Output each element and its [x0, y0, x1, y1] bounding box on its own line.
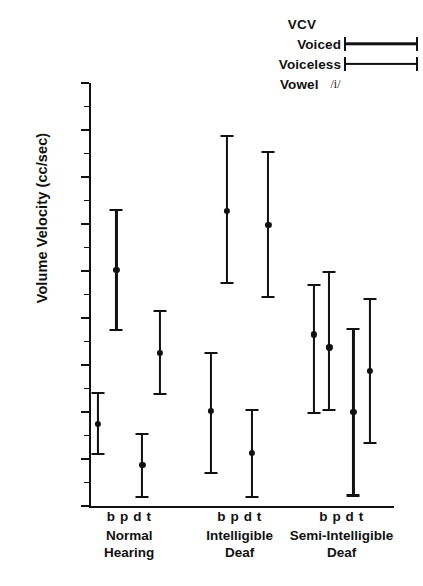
x-group-name-line1: Semi-Intelligible: [262, 528, 422, 545]
legend-voiced-label: Voiced: [297, 37, 341, 52]
mean-marker: [157, 350, 163, 356]
y-tick-1300: [84, 294, 89, 296]
x-axis-group-labels: b p d tNormalHearingb p d tIntelligibleD…: [89, 509, 394, 583]
y-tick-900: [84, 388, 89, 390]
x-group-name-line2: Deaf: [262, 545, 422, 562]
y-tick-1600: [81, 223, 89, 225]
error-bar-cap-upper: [363, 298, 376, 300]
error-bar-cap-lower: [323, 409, 336, 411]
y-tick-600: [81, 458, 89, 460]
legend-voiced-row: Voiced: [236, 34, 418, 54]
x-group-semi-intelligible: b p d tSemi-IntelligibleDeaf: [262, 509, 422, 561]
error-bar-cap-lower: [262, 296, 275, 298]
y-tick-1700: [84, 200, 89, 202]
y-tick-1800: [81, 176, 89, 178]
error-bar-cap-upper: [323, 271, 336, 273]
legend-voiceless-row: Voiceless: [236, 54, 418, 74]
y-tick-2200: [81, 82, 89, 84]
mean-marker: [208, 408, 214, 414]
error-bar-cap-upper: [347, 328, 360, 330]
error-bar-cap-upper: [307, 284, 320, 286]
y-tick-800: [81, 411, 89, 413]
y-tick-1100: [84, 341, 89, 343]
error-bar-cap-lower: [136, 496, 149, 498]
error-bar-cap-lower: [246, 496, 259, 498]
x-axis-line: [89, 506, 394, 508]
y-axis-line: [89, 83, 91, 508]
mean-marker: [224, 208, 230, 214]
error-bar-line: [328, 272, 330, 409]
y-tick-400: [81, 505, 89, 507]
legend-voiceless-label: Voiceless: [279, 57, 341, 72]
error-bar-cap-upper: [220, 135, 233, 137]
error-bar-cap-lower: [220, 282, 233, 284]
y-tick-2000: [81, 129, 89, 131]
error-bar-cap-upper: [246, 409, 259, 411]
legend-title-row: VCV: [236, 14, 418, 34]
error-bar-cap-lower: [92, 453, 105, 455]
error-bar-cap-lower: [347, 494, 360, 496]
volume-velocity-figure: VCV Voiced Voiceless Vowel /i/ Volume Ve…: [0, 0, 423, 586]
x-phoneme-labels: b p d t: [262, 509, 422, 528]
error-bar-cap-lower: [307, 412, 320, 414]
mean-marker: [367, 368, 373, 374]
error-bar-cap-upper: [262, 151, 275, 153]
error-bar-cap-upper: [153, 310, 166, 312]
y-tick-1200: [81, 317, 89, 319]
error-bar-cap-lower: [110, 329, 123, 331]
y-tick-2100: [84, 106, 89, 108]
error-bar-cap-upper: [92, 392, 105, 394]
error-bar-cap-lower: [153, 393, 166, 395]
mean-marker: [95, 421, 101, 427]
y-tick-1400: [81, 270, 89, 272]
mean-marker: [311, 331, 317, 337]
mean-marker: [249, 450, 255, 456]
y-tick-1500: [84, 247, 89, 249]
voiceless-errorbar-swatch-icon: [344, 57, 418, 71]
mean-marker: [113, 267, 119, 273]
error-bar-line: [313, 285, 315, 413]
y-tick-500: [84, 482, 89, 484]
error-bar-cap-upper: [205, 352, 218, 354]
plot-area: 2200200018001600140012001000800600400: [89, 83, 394, 508]
voiced-errorbar-swatch-icon: [344, 37, 418, 51]
error-bar-cap-upper: [136, 433, 149, 435]
error-bar-cap-lower: [205, 472, 218, 474]
y-axis-title: Volume Velocity (cc/sec): [34, 93, 50, 343]
legend-title: VCV: [236, 17, 418, 32]
mean-marker: [139, 462, 145, 468]
error-bar-cap-upper: [110, 209, 123, 211]
y-tick-1900: [84, 153, 89, 155]
y-tick-700: [84, 435, 89, 437]
y-tick-1000: [81, 364, 89, 366]
mean-marker: [350, 409, 356, 415]
error-bar-cap-lower: [363, 442, 376, 444]
mean-marker: [265, 222, 271, 228]
mean-marker: [326, 344, 332, 350]
